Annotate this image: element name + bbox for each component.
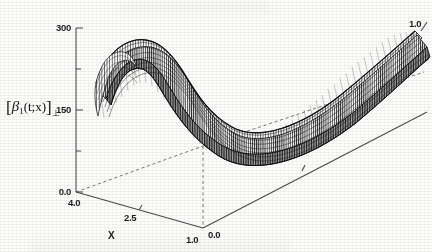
z-label-argument: (t;x) [24, 99, 46, 114]
x-tick-mid [139, 205, 142, 210]
t-tick-label-1: 1.0 [409, 18, 421, 29]
z-tick-label-300: 300 [56, 22, 71, 33]
x-tick-label-4: 4.0 [68, 197, 80, 208]
z-tick-label-0: 0.0 [59, 186, 71, 197]
base-edge-back-left [76, 146, 203, 192]
z-axis-label: [β1(t;x)]⊥ [6, 98, 60, 118]
x-tick-label-1: 1.0 [186, 234, 198, 245]
z-label-perp-symbol: ⊥ [52, 108, 60, 118]
surface-plot-figure: 300 150 0.0 4.0 2.5 1.0 X 0.0 0.5 1.0 t [0, 0, 432, 252]
t-tick-label-0: 0.0 [208, 229, 220, 240]
x-axis-name: X [108, 230, 115, 241]
x-tick-label-25: 2.5 [124, 212, 137, 223]
surface-mesh [95, 31, 430, 166]
plot-canvas: 300 150 0.0 4.0 2.5 1.0 X 0.0 0.5 1.0 t [0, 0, 432, 252]
t-tick-end [421, 22, 427, 31]
vertical-axis: 300 150 0.0 [56, 22, 83, 197]
t-tick-mid [302, 165, 305, 171]
